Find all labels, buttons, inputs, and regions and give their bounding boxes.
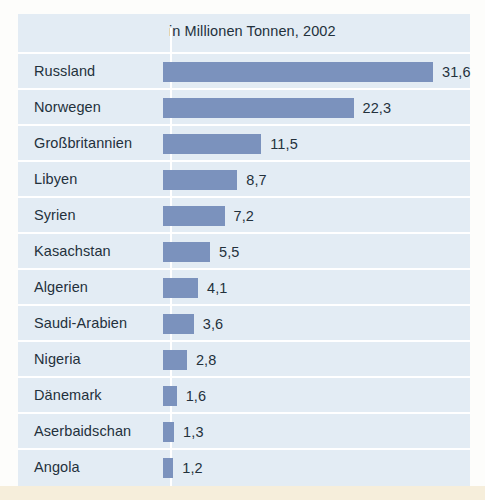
page-bottom-strip	[0, 486, 485, 500]
bar-row: Saudi-Arabien3,6	[18, 304, 470, 340]
bar-value-label: 5,5	[219, 244, 239, 260]
bar-row-label: Norwegen	[34, 99, 101, 115]
bar-track: 22,3	[163, 98, 470, 118]
bar-row: Norwegen22,3	[18, 88, 470, 124]
bar-value-label: 22,3	[363, 100, 392, 116]
bar-row: Libyen8,7	[18, 160, 470, 196]
bar-row-label: Algerien	[34, 279, 88, 295]
bar-row-label: Großbritannien	[34, 135, 132, 151]
bar	[163, 242, 210, 262]
bar-value-label: 4,1	[207, 280, 227, 296]
bar-row: Dänemark1,6	[18, 376, 470, 412]
bar	[163, 314, 194, 334]
bar-row-label: Russland	[34, 63, 95, 79]
bar-value-label: 11,5	[270, 136, 298, 152]
page-background: in Millionen Tonnen, 2002 Russland31,6No…	[0, 0, 485, 500]
bar-value-label: 7,2	[234, 208, 254, 224]
bar	[163, 98, 354, 118]
bar	[163, 386, 177, 406]
bar-track: 8,7	[163, 170, 470, 190]
bar-row: Kasachstan5,5	[18, 232, 470, 268]
bar	[163, 350, 187, 370]
bar-track: 1,2	[163, 458, 470, 478]
chart-header-row: in Millionen Tonnen, 2002	[18, 14, 470, 52]
bar-row: Algerien4,1	[18, 268, 470, 304]
bar	[163, 458, 173, 478]
bar-value-label: 1,6	[186, 388, 206, 404]
bar-value-label: 2,8	[196, 352, 216, 368]
bar-value-label: 1,3	[183, 424, 203, 440]
bar-row: Aserbaidschan1,3	[18, 412, 470, 448]
bar-track: 31,6	[163, 62, 470, 82]
bar-row: Syrien7,2	[18, 196, 470, 232]
bar-row-label: Kasachstan	[34, 243, 111, 259]
bar-track: 1,3	[163, 422, 470, 442]
bar-value-label: 31,6	[442, 64, 471, 80]
bar-row-label: Saudi-Arabien	[34, 315, 127, 331]
bar-row-label: Nigeria	[34, 351, 81, 367]
bar-row-label: Dänemark	[34, 387, 102, 403]
bar	[163, 422, 174, 442]
bar-track: 7,2	[163, 206, 470, 226]
bar-row-label: Libyen	[34, 171, 77, 187]
bar-row-label: Aserbaidschan	[34, 423, 131, 439]
bar	[163, 206, 225, 226]
bar-value-label: 1,2	[182, 460, 202, 476]
bar	[163, 278, 198, 298]
bar-track: 11,5	[163, 134, 470, 154]
bar-row: Russland31,6	[18, 52, 470, 88]
bar	[163, 170, 237, 190]
bar-row-label: Angola	[34, 459, 80, 475]
bar-track: 1,6	[163, 386, 470, 406]
bar-value-label: 3,6	[203, 316, 223, 332]
bar-track: 4,1	[163, 278, 470, 298]
bar-row: Nigeria2,8	[18, 340, 470, 376]
chart-panel: in Millionen Tonnen, 2002 Russland31,6No…	[18, 14, 470, 486]
bar-track: 5,5	[163, 242, 470, 262]
bar-row: Großbritannien11,5	[18, 124, 470, 160]
bar-row: Angola1,2	[18, 448, 470, 484]
chart-title: in Millionen Tonnen, 2002	[169, 23, 336, 39]
bar	[163, 62, 433, 82]
bar-value-label: 8,7	[246, 172, 266, 188]
bar-track: 2,8	[163, 350, 470, 370]
bar-track: 3,6	[163, 314, 470, 334]
bar	[163, 134, 261, 154]
bar-row-label: Syrien	[34, 207, 76, 223]
